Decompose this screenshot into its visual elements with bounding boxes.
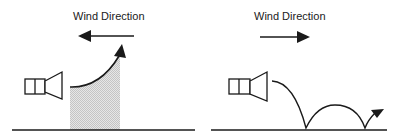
wind-arrow-left-icon (78, 30, 134, 42)
wind-arrow-right-icon (260, 31, 310, 43)
upwind-panel: Wind Direction (0, 0, 199, 139)
downwind-diagram (199, 0, 398, 139)
speaker-icon (25, 72, 62, 99)
sound-path-arrowhead-icon (114, 44, 126, 58)
downwind-panel: Wind Direction (199, 0, 398, 139)
speaker-icon (229, 72, 267, 101)
sound-path (272, 81, 375, 128)
upwind-diagram (0, 0, 199, 139)
sound-path-arrowhead-icon (371, 109, 384, 118)
